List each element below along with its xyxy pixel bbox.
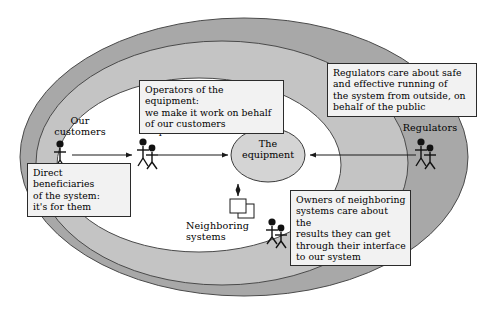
callout-operators: Operators of the equipment: we make it w… [139,80,284,134]
diagram-canvas: The equipment Our customers Operators Re… [0,0,495,311]
equipment-label: The equipment [237,138,299,161]
callout-neighboring-systems: Owners of neighboring systems care about… [290,190,411,266]
actor-label-regulators: Regulators [392,122,468,133]
callout-regulators: Regulators care about safe and effective… [327,63,477,117]
actor-label-neighboring-systems: Neighboring systems [186,220,258,242]
actor-label-our-customers: Our customers [45,115,115,137]
callout-our-customers: Direct beneficiaries of the system: it's… [27,163,131,217]
